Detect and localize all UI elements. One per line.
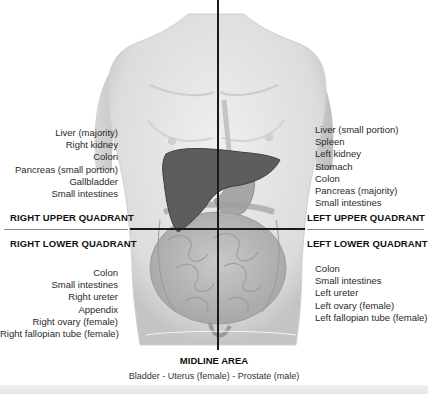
organ-item: Liver (majority) xyxy=(0,127,118,139)
bottom-shadow-bar xyxy=(0,385,428,394)
organ-item: Right fallopian tube (female) xyxy=(0,328,118,340)
organ-item: Liver (small portion) xyxy=(315,124,398,136)
organ-item: Right ureter xyxy=(0,291,118,303)
quadrant-diagram: Liver (majority) Right kidney Colon Panc… xyxy=(0,0,428,394)
organ-item: Left kidney xyxy=(315,148,398,160)
organ-item: Right kidney xyxy=(0,139,118,151)
organ-item: Pancreas (majority) xyxy=(315,185,398,197)
divider-right xyxy=(4,229,128,230)
organ-item: Small intestines xyxy=(0,188,118,200)
right-lower-quadrant-title: RIGHT LOWER QUADRANT xyxy=(10,238,137,249)
organ-item: Small intestines xyxy=(315,275,427,287)
organ-item: Colon xyxy=(0,267,118,279)
right-upper-organ-list: Liver (majority) Right kidney Colon Panc… xyxy=(0,127,118,200)
organ-item: Colon xyxy=(315,173,398,185)
organ-item: Right ovary (female) xyxy=(0,316,118,328)
organ-item: Spleen xyxy=(315,136,398,148)
left-nipple xyxy=(265,133,273,141)
left-upper-organ-list: Liver (small portion) Spleen Left kidney… xyxy=(315,124,398,209)
organ-item: Colon xyxy=(0,151,118,163)
organ-item: Stomach xyxy=(315,161,398,173)
divider-left xyxy=(307,229,424,230)
midline-area-organs: Bladder - Uterus (female) - Prostate (ma… xyxy=(0,371,428,381)
organ-item: Left fallopian tube (female) xyxy=(315,312,427,324)
organ-item: Appendix xyxy=(0,304,118,316)
organ-item: Small intestines xyxy=(0,279,118,291)
organ-item: Pancreas (small portion) xyxy=(0,164,118,176)
midline-area-title: MIDLINE AREA xyxy=(0,355,428,366)
left-lower-quadrant-title: LEFT LOWER QUADRANT xyxy=(307,238,428,249)
organ-item: Gallbladder xyxy=(0,176,118,188)
left-lower-organ-list: Colon Small intestines Left ureter Left … xyxy=(315,263,427,324)
right-upper-quadrant-title: RIGHT UPPER QUADRANT xyxy=(10,212,134,223)
organ-item: Left ovary (female) xyxy=(315,300,427,312)
right-nipple xyxy=(168,137,176,145)
organ-item: Small intestines xyxy=(315,197,398,209)
organ-item: Left ureter xyxy=(315,287,427,299)
right-lower-organ-list: Colon Small intestines Right ureter Appe… xyxy=(0,267,118,340)
organ-item: Colon xyxy=(315,263,427,275)
left-upper-quadrant-title: LEFT UPPER QUADRANT xyxy=(307,212,425,223)
